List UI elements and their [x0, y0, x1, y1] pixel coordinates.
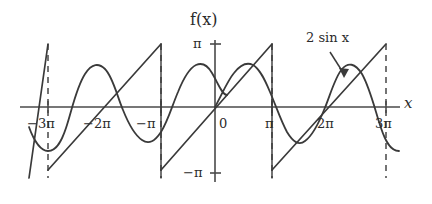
sine-curve-annotation-label: 2 sin x [306, 31, 349, 44]
x-tick-label-neg2pi: −2π [83, 117, 111, 130]
x-tick-label-zero: 0 [219, 117, 227, 130]
page-title: f(x) [190, 12, 217, 28]
x-tick-label-negpi: −π [136, 117, 155, 130]
function-graph-figure [0, 0, 432, 204]
x-tick-label-pi: π [265, 117, 274, 130]
x-tick-label-3pi: 3π [375, 117, 392, 130]
x-axis-label: x [404, 96, 412, 111]
x-tick-label-neg3pi: −3π [27, 117, 55, 130]
y-tick-label-negpi: −π [183, 166, 202, 179]
x-tick-label-2pi: 2π [317, 117, 334, 130]
y-tick-label-pi: π [193, 37, 202, 50]
